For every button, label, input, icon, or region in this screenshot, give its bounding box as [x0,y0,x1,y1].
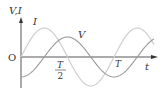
period-label: T [115,59,122,69]
half-period-denominator: 2 [58,71,64,81]
phase-diagram: V,I O I V T 2 T t [0,0,165,91]
x-axis-label: t [145,61,150,72]
curve-i-label: I [32,16,38,27]
x-axis-arrow-icon [151,55,158,59]
half-period-numerator: T [57,60,64,70]
y-axis-arrow-icon [19,17,23,23]
y-axis-label: V,I [9,5,23,16]
origin-label: O [8,52,16,63]
curve-v-label: V [78,29,87,40]
